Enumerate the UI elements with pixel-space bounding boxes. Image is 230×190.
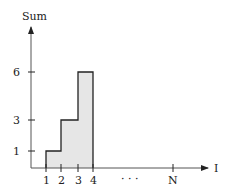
y-tick-3: 3 <box>13 114 20 127</box>
x-tick-1: 1 <box>43 174 50 187</box>
y-tick-1: 1 <box>13 145 20 158</box>
x-ellipsis: · · · <box>121 173 138 186</box>
y-tick-6: 6 <box>13 66 20 79</box>
x-tick-4: 4 <box>90 174 97 187</box>
cumulative-sum-step-chart: Sum I 6 3 1 1 2 3 4 · · · N <box>0 0 230 190</box>
x-tick-2: 2 <box>58 174 65 187</box>
x-tick-n: N <box>168 174 178 187</box>
x-axis-label: I <box>214 162 218 175</box>
y-axis-label: Sum <box>22 10 48 23</box>
x-tick-3: 3 <box>75 174 82 187</box>
